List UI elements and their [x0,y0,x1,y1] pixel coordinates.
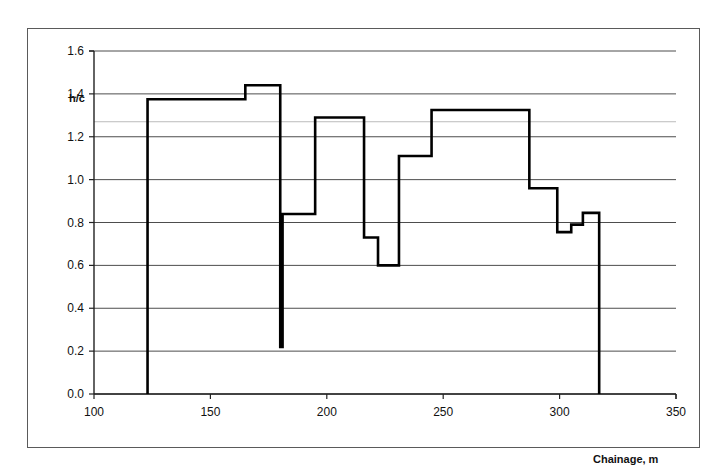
x-axis-tick-label: 200 [317,405,337,419]
y-axis-tick-label: 1.2 [67,130,84,144]
y-axis-tick-label: 0.0 [67,387,84,401]
chart-plot-area: 0.00.20.40.60.81.01.21.41.61001502002503… [28,29,699,447]
y-axis-title: h/c [69,92,85,104]
x-axis-tick-label: 350 [666,405,686,419]
y-axis-tick-label: 0.8 [67,216,84,230]
x-axis-tick-label: 300 [550,405,570,419]
chart-outer-frame: 0.00.20.40.60.81.01.21.41.61001502002503… [27,28,700,448]
y-axis-tick-label: 1.0 [67,173,84,187]
figure-container: 0.00.20.40.60.81.01.21.41.61001502002503… [0,0,721,470]
y-axis-tick-label: 0.6 [67,258,84,272]
x-axis-title: Chainage, m [593,453,658,465]
y-axis-tick-label: 0.2 [67,344,84,358]
x-axis-tick-label: 100 [84,405,104,419]
y-axis-tick-label: 0.4 [67,301,84,315]
data-series-line [148,85,600,394]
y-axis-tick-label: 1.6 [67,44,84,58]
x-axis-tick-label: 250 [433,405,453,419]
x-axis-tick-label: 150 [200,405,220,419]
